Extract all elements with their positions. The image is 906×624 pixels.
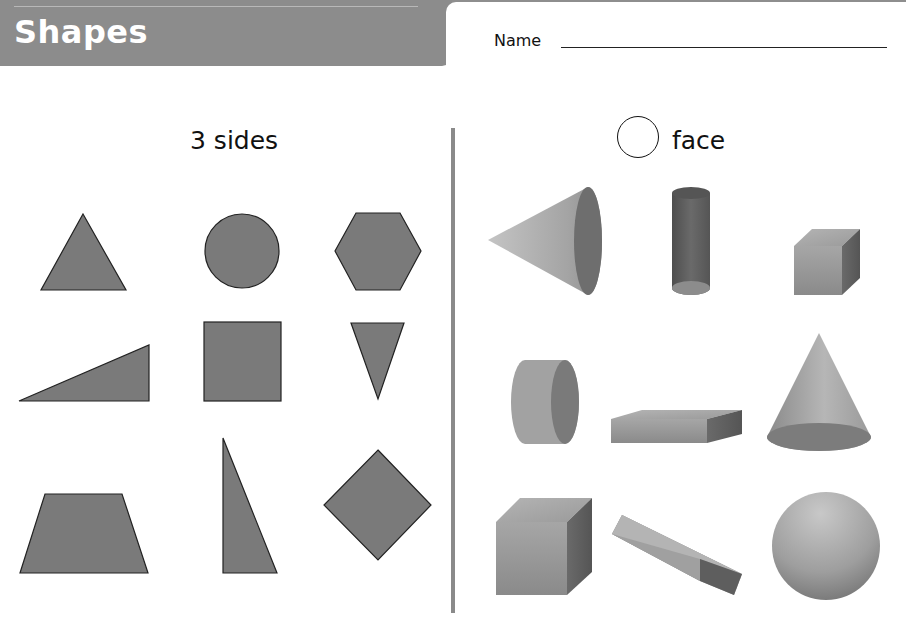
- triangle: [41, 214, 126, 290]
- hexagon: [335, 213, 421, 290]
- cube-large: [496, 498, 592, 595]
- shapes-canvas: [0, 0, 906, 624]
- rhombus: [324, 450, 431, 560]
- cylinder-upright: [672, 187, 710, 295]
- rectangular-prism-tilted: [612, 515, 742, 595]
- cone-upright: [767, 333, 871, 451]
- square: [204, 322, 281, 401]
- cube-small: [794, 229, 860, 295]
- rectangular-prism-flat: [611, 410, 742, 443]
- right-triangle-wide: [19, 345, 149, 401]
- cylinder-sideways: [511, 360, 579, 444]
- trapezoid: [20, 494, 148, 573]
- inverted-triangle: [351, 323, 404, 399]
- sphere: [772, 492, 880, 600]
- circle: [205, 214, 279, 288]
- right-triangle-tall: [223, 438, 277, 573]
- cone-sideways: [488, 187, 602, 295]
